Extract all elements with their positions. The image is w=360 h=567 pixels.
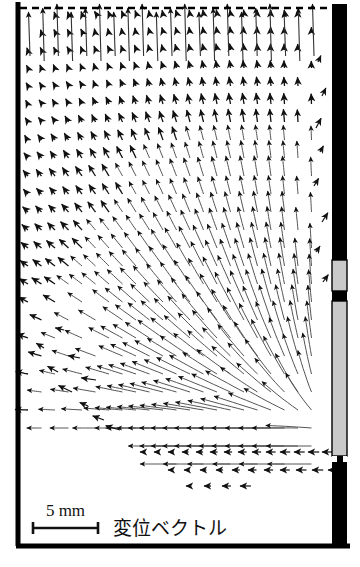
displacement-vector bbox=[41, 30, 42, 32]
displacement-vector-figure: 5 mm 変位ベクトル bbox=[0, 0, 360, 567]
displacement-vector bbox=[257, 27, 258, 32]
displacement-vector bbox=[284, 77, 285, 86]
wall-segment-upper-gray-window bbox=[332, 260, 347, 291]
displacement-vector bbox=[216, 27, 217, 32]
displacement-vector bbox=[68, 12, 69, 14]
displacement-vector bbox=[243, 44, 244, 50]
displacement-vector bbox=[230, 10, 231, 14]
displacement-vector bbox=[270, 77, 271, 86]
figure-canvas: 5 mm 変位ベクトル bbox=[0, 0, 360, 567]
legend-label-displacement-vector: 変位ベクトル bbox=[113, 517, 227, 539]
right-wall-assembly bbox=[332, 4, 347, 548]
wall-segment-bottom-black bbox=[332, 462, 347, 548]
displacement-vector bbox=[189, 10, 190, 14]
wall-segment-middle-black-divider bbox=[332, 291, 347, 301]
displacement-vector bbox=[270, 60, 271, 68]
displacement-vector bbox=[311, 126, 312, 140]
displacement-vector bbox=[230, 27, 231, 32]
displacement-vector bbox=[162, 10, 163, 14]
displacement-vector bbox=[216, 10, 217, 14]
wall-segment-upper-black bbox=[332, 4, 347, 260]
wall-segment-lower-gray-window bbox=[332, 301, 347, 456]
displacement-vector bbox=[54, 12, 55, 14]
displacement-vector bbox=[149, 10, 150, 14]
wall-narrow-stem bbox=[337, 456, 343, 464]
displacement-vector bbox=[203, 10, 204, 14]
displacement-vector bbox=[297, 110, 298, 122]
displacement-vector bbox=[284, 61, 285, 69]
displacement-vector bbox=[243, 27, 244, 32]
displacement-vector bbox=[244, 10, 245, 14]
displacement-vector bbox=[298, 77, 299, 86]
displacement-vector bbox=[284, 93, 285, 104]
scale-bar-label: 5 mm bbox=[46, 501, 85, 520]
displacement-vector bbox=[108, 11, 109, 14]
displacement-vector bbox=[81, 12, 82, 15]
